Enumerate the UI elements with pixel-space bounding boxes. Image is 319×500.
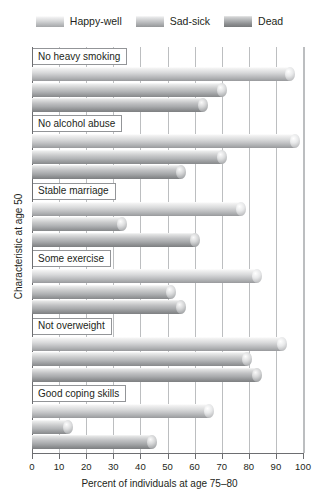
bar-body xyxy=(32,98,203,112)
gridline-90 xyxy=(276,47,277,453)
bar-body xyxy=(32,202,241,216)
gridline-80 xyxy=(249,47,250,453)
bar-end-cap xyxy=(176,300,186,314)
tick-label-40: 40 xyxy=(135,461,146,472)
category-label-box-4: Not overweight xyxy=(33,318,112,335)
category-label-text: Some exercise xyxy=(38,254,104,264)
legend-swatch-dead-icon xyxy=(224,16,252,27)
bar-1-2 xyxy=(32,165,186,179)
y-axis-title: Characteristic at age 50 xyxy=(13,137,24,357)
tick-label-90: 90 xyxy=(271,461,282,472)
bar-end-cap xyxy=(242,352,252,366)
tick-label-60: 60 xyxy=(189,461,200,472)
legend-swatch-sad-sick-icon xyxy=(136,16,164,27)
bar-end-cap xyxy=(204,404,214,418)
legend-item-dead: Dead xyxy=(224,16,283,27)
legend-item-sad-sick: Sad-sick xyxy=(136,16,210,27)
tick-30 xyxy=(113,454,114,459)
bar-0-0 xyxy=(32,67,295,81)
bar-end-cap xyxy=(252,368,262,382)
category-label-text: No alcohol abuse xyxy=(38,119,115,129)
category-label-text: Stable marriage xyxy=(38,186,109,196)
bar-body xyxy=(32,337,282,351)
category-label-box-0: No heavy smoking xyxy=(33,48,127,65)
bar-end-cap xyxy=(277,337,287,351)
bar-body xyxy=(32,269,257,283)
bar-end-cap xyxy=(285,67,295,81)
bar-end-cap xyxy=(217,150,227,164)
chart-legend: Happy-well Sad-sick Dead xyxy=(0,8,319,34)
bar-end-cap xyxy=(252,269,262,283)
bar-body xyxy=(32,233,195,247)
tick-80 xyxy=(249,454,250,459)
category-label-box-3: Some exercise xyxy=(33,250,111,267)
bar-end-cap xyxy=(117,217,127,231)
bar-body xyxy=(32,300,181,314)
bar-end-cap xyxy=(236,202,246,216)
tick-label-50: 50 xyxy=(162,461,173,472)
tick-label-70: 70 xyxy=(216,461,227,472)
tick-90 xyxy=(276,454,277,459)
bar-1-1 xyxy=(32,150,227,164)
tick-100 xyxy=(303,454,304,459)
category-label-text: No heavy smoking xyxy=(38,52,120,62)
bar-body xyxy=(32,165,181,179)
tick-40 xyxy=(140,454,141,459)
bar-2-2 xyxy=(32,233,200,247)
bar-0-2 xyxy=(32,98,208,112)
bar-body xyxy=(32,134,295,148)
tick-50 xyxy=(168,454,169,459)
bar-end-cap xyxy=(190,233,200,247)
tick-20 xyxy=(86,454,87,459)
bar-end-cap xyxy=(63,420,73,434)
bar-body xyxy=(32,150,222,164)
x-axis-title: Percent of individuals at age 75–80 xyxy=(0,478,319,489)
bar-body xyxy=(32,368,257,382)
bar-body xyxy=(32,352,247,366)
bar-end-cap xyxy=(217,83,227,97)
bar-end-cap xyxy=(147,435,157,449)
category-label-box-1: No alcohol abuse xyxy=(33,115,122,132)
bar-5-0 xyxy=(32,404,214,418)
legend-label-sad-sick: Sad-sick xyxy=(170,16,210,27)
legend-label-happy-well: Happy-well xyxy=(70,16,122,27)
bar-2-1 xyxy=(32,217,127,231)
tick-70 xyxy=(222,454,223,459)
tick-label-0: 0 xyxy=(29,461,34,472)
bar-body xyxy=(32,285,171,299)
bar-end-cap xyxy=(176,165,186,179)
tick-0 xyxy=(32,454,33,459)
category-label-text: Not overweight xyxy=(38,321,105,331)
bar-2-0 xyxy=(32,202,246,216)
bar-3-0 xyxy=(32,269,262,283)
category-label-box-5: Good coping skills xyxy=(33,385,126,402)
legend-swatch-happy-well-icon xyxy=(36,16,64,27)
gridline-100 xyxy=(303,47,304,453)
bar-end-cap xyxy=(290,134,300,148)
bar-3-1 xyxy=(32,285,176,299)
bar-4-2 xyxy=(32,368,262,382)
category-label-box-2: Stable marriage xyxy=(33,183,116,200)
gridline-70 xyxy=(222,47,223,453)
bar-body xyxy=(32,404,209,418)
tick-label-100: 100 xyxy=(295,461,311,472)
tick-label-10: 10 xyxy=(54,461,65,472)
bar-body xyxy=(32,67,290,81)
bar-3-2 xyxy=(32,300,186,314)
tick-60 xyxy=(195,454,196,459)
bar-1-0 xyxy=(32,134,300,148)
bar-body xyxy=(32,83,222,97)
bar-4-1 xyxy=(32,352,252,366)
bar-body xyxy=(32,435,152,449)
bar-body xyxy=(32,217,122,231)
tick-label-80: 80 xyxy=(244,461,255,472)
tick-10 xyxy=(59,454,60,459)
category-label-text: Good coping skills xyxy=(38,389,119,399)
legend-item-happy-well: Happy-well xyxy=(36,16,122,27)
legend-label-dead: Dead xyxy=(258,16,283,27)
bar-end-cap xyxy=(198,98,208,112)
bar-4-0 xyxy=(32,337,287,351)
tick-label-20: 20 xyxy=(81,461,92,472)
bar-0-1 xyxy=(32,83,227,97)
bar-end-cap xyxy=(166,285,176,299)
